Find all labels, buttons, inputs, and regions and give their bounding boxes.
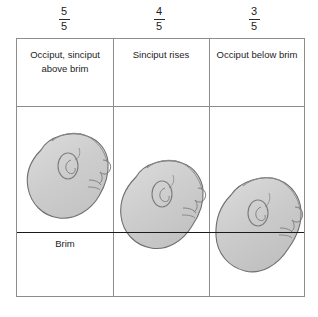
fetal-head-illustration-2 xyxy=(112,129,208,264)
fetal-head-illustration-3 xyxy=(207,143,307,283)
fraction-denominator: 5 xyxy=(44,21,84,33)
fraction-label-column-2: 4 5 xyxy=(139,6,179,32)
brim-label: Brim xyxy=(17,234,113,249)
column-header-text: Sinciput rises xyxy=(133,48,190,62)
fraction-denominator: 5 xyxy=(234,21,274,33)
column-header-1: Occiput, sinciput above brim xyxy=(17,39,113,106)
header-divider xyxy=(17,106,304,107)
pelvic-brim-line xyxy=(17,232,304,233)
column-header-3: Occiput below brim xyxy=(209,39,305,106)
fraction-numerator: 3 xyxy=(234,6,274,19)
fetal-head-illustration-1 xyxy=(19,108,115,238)
fraction-numerator: 5 xyxy=(44,6,84,19)
column-header-text: Occiput below brim xyxy=(217,48,298,62)
head-outline-group xyxy=(216,178,303,272)
column-header-text: Occiput, sinciput above brim xyxy=(23,48,107,76)
fetal-head-descent-figure: 5 5 4 5 3 5 Occiput, sinciput above brim… xyxy=(0,0,318,317)
fraction-denominator: 5 xyxy=(139,21,179,33)
fraction-label-column-3: 3 5 xyxy=(234,6,274,32)
descent-table: Occiput, sinciput above brim Sinciput ri… xyxy=(16,38,305,297)
head-outline-group xyxy=(27,133,110,218)
column-header-2: Sinciput rises xyxy=(113,39,209,106)
fraction-numerator: 4 xyxy=(139,6,179,19)
head-outline-group xyxy=(121,160,206,248)
fraction-label-column-1: 5 5 xyxy=(44,6,84,32)
